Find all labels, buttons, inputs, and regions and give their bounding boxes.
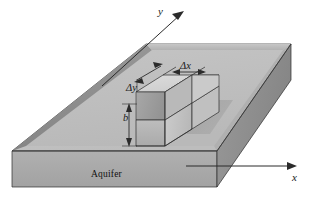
aquifer-region-label: Aquifer: [91, 170, 122, 180]
cube-front-left-face: [136, 120, 165, 146]
aquifer-diagram: y x Δx Δy b Aquifer: [0, 0, 311, 201]
delta-y-label: Δy: [126, 83, 137, 94]
cube-inner-cavity: [136, 92, 165, 120]
y-axis-label: y: [158, 6, 163, 17]
thickness-b-label: b: [123, 113, 128, 124]
x-axis-arrow-head: [287, 162, 297, 170]
y-axis-arrow-head: [172, 11, 184, 20]
diagram-canvas: [0, 0, 311, 201]
slab-inner-wall-back: [146, 44, 291, 50]
delta-x-label: Δx: [180, 61, 191, 72]
x-axis-label: x: [292, 172, 297, 183]
